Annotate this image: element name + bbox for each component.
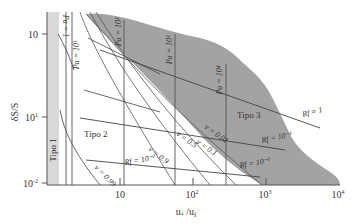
x-tick-label: 10 [115, 189, 125, 200]
pa1000-label: Pa = 10³ [165, 35, 174, 65]
rf1-label: Rf = 1 [300, 105, 323, 119]
pa1-label: Pa = 1 [61, 14, 70, 37]
y-tick-label: 101 [25, 112, 38, 123]
rf-line-mid [84, 90, 160, 112]
tipo1-label: Tipo 1 [48, 138, 58, 161]
pa10-label: Pa = 10¹ [72, 40, 81, 70]
pa100-label: Pa = 10² [114, 17, 123, 47]
y-axis-title: δS/S [9, 103, 20, 122]
x-tick-label: 103 [259, 189, 272, 200]
v05-label: v = 0.5 [175, 129, 199, 150]
y-tick-label: 10-2 [23, 178, 38, 189]
pa10000-label: Pa = 10⁴ [215, 65, 224, 95]
tipo3-label: Tipo 3 [237, 110, 261, 120]
x-tick-label: 102 [186, 189, 199, 200]
chart: 10 101 10-2 10 102 103 104 δS/S u* /uf T… [0, 0, 356, 224]
tipo2-label: Tipo 2 [84, 129, 107, 139]
y-tick-label: 10 [28, 29, 38, 40]
x-axis-title: u* /uf [176, 206, 197, 219]
x-tick-label: 104 [332, 189, 345, 200]
